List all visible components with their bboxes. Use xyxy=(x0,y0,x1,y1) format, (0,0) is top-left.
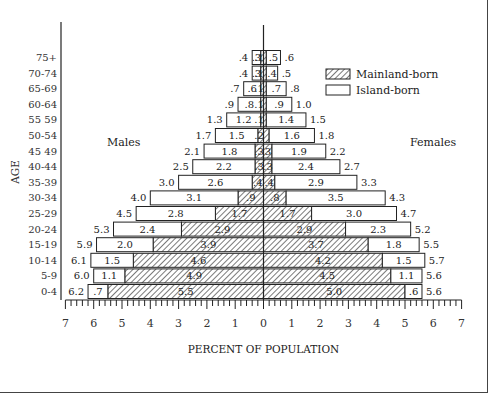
age-row: 75+.4.3.1.5.6 xyxy=(36,51,294,65)
age-label: 50-54 xyxy=(28,130,57,141)
label-male-mainland: .1 xyxy=(254,83,264,94)
label-female-mainland: 5.0 xyxy=(326,286,342,297)
label-male-total: 4.5 xyxy=(116,208,132,219)
label-female-island: .5 xyxy=(269,52,279,63)
label-female-mainland: 3.7 xyxy=(308,239,324,250)
label-male-mainland: .1 xyxy=(254,99,264,110)
label-male-mainland: .9 xyxy=(246,192,256,203)
label-female-mainland: 4.5 xyxy=(319,270,335,281)
age-label: 15-19 xyxy=(28,239,57,250)
label-female-mainland: .4 xyxy=(264,177,274,188)
label-female-total: 5.6 xyxy=(426,286,442,297)
label-male-mainland: .1 xyxy=(254,52,264,63)
label-female-total: 5.2 xyxy=(415,224,431,235)
legend-label-mainland: Mainland-born xyxy=(356,68,438,81)
label-female-total: 5.7 xyxy=(429,255,445,266)
age-label: 30-34 xyxy=(28,192,57,203)
label-male-total: 3.0 xyxy=(159,177,175,188)
label-male-mainland: 2.9 xyxy=(215,224,231,235)
females-label: Females xyxy=(410,136,457,149)
x-tick-label: 4 xyxy=(147,317,154,330)
age-label: 75+ xyxy=(36,52,57,63)
label-female-total: .5 xyxy=(282,68,292,79)
x-tick-label: 5 xyxy=(119,317,126,330)
x-tick-label: 1 xyxy=(232,317,239,330)
population-pyramid-chart: 75+.4.3.1.5.670-74.4.3.1.4.565-69.7.6.1.… xyxy=(0,0,495,402)
age-row: 15-195.92.03.93.71.85.5 xyxy=(28,238,439,252)
label-female-island: 3.0 xyxy=(346,208,362,219)
label-male-total: 6.0 xyxy=(74,270,90,281)
x-tick-label: 7 xyxy=(62,317,69,330)
label-male-total: 5.9 xyxy=(77,239,93,250)
label-male-island: 1.8 xyxy=(222,146,238,157)
x-tick-label: 3 xyxy=(175,317,182,330)
label-female-island: 1.5 xyxy=(396,255,412,266)
label-male-mainland: 4.9 xyxy=(186,270,202,281)
label-male-island: 1.5 xyxy=(104,255,120,266)
label-male-total: 4.0 xyxy=(130,192,146,203)
age-label: 35-39 xyxy=(28,177,57,188)
label-male-total: 2.5 xyxy=(173,161,189,172)
label-female-total: 5.6 xyxy=(426,270,442,281)
age-label: 25-29 xyxy=(28,208,57,219)
label-male-total: .7 xyxy=(230,83,240,94)
label-female-island: 1.6 xyxy=(284,130,300,141)
age-label: 55 59 xyxy=(28,114,57,125)
x-tick-label: 6 xyxy=(430,317,437,330)
age-label: 0-4 xyxy=(41,286,57,297)
age-row: 65-69.7.6.1.7.8 xyxy=(28,82,300,96)
label-female-island: .6 xyxy=(409,286,419,297)
label-female-total: 1.0 xyxy=(296,99,312,110)
age-row: 35-393.02.6.4.42.93.3 xyxy=(28,175,377,189)
label-male-total: 1.7 xyxy=(195,130,211,141)
label-male-mainland: 5.5 xyxy=(178,286,194,297)
age-row: 40-442.52.2.3.32.42.7 xyxy=(28,160,360,174)
bar-female-mainland xyxy=(264,129,270,143)
label-male-island: 2.2 xyxy=(216,161,232,172)
age-label: 40-44 xyxy=(28,161,57,172)
age-row: 5-96.01.14.94.51.15.6 xyxy=(41,269,442,283)
label-male-mainland: 1.7 xyxy=(231,208,247,219)
label-male-island: 2.6 xyxy=(207,177,223,188)
label-male-island: 1.2 xyxy=(236,114,252,125)
label-male-island: 2.4 xyxy=(140,224,156,235)
x-tick-label: 3 xyxy=(345,317,352,330)
label-male-mainland: 4.6 xyxy=(190,255,206,266)
label-female-total: 1.5 xyxy=(310,114,326,125)
x-tick-label: 7 xyxy=(458,317,465,330)
x-tick-label: 0 xyxy=(260,317,267,330)
label-female-mainland: 4.2 xyxy=(315,255,331,266)
label-male-mainland: .1 xyxy=(254,68,264,79)
label-female-total: 3.3 xyxy=(361,177,377,188)
legend: Mainland-bornIsland-born xyxy=(326,68,438,97)
legend-label-island: Island-born xyxy=(356,84,420,97)
label-female-mainland: 2.9 xyxy=(297,224,313,235)
x-axis-title: PERCENT OF POPULATION xyxy=(188,343,339,355)
label-male-island: 1.1 xyxy=(101,270,117,281)
label-male-total: .4 xyxy=(239,68,249,79)
label-female-island: .4 xyxy=(267,68,277,79)
x-tick-label: 1 xyxy=(288,317,295,330)
label-male-island: 3.1 xyxy=(186,192,202,203)
age-row: 25-294.52.81.71.73.04.7 xyxy=(28,207,416,221)
label-male-mainland: .3 xyxy=(254,146,264,157)
x-tick-label: 4 xyxy=(373,317,380,330)
label-female-total: .8 xyxy=(290,83,300,94)
age-row: 55 591.31.2.11.41.5 xyxy=(28,113,325,127)
age-row: 60-64.9.8.1.91.0 xyxy=(28,97,312,111)
label-female-island: .9 xyxy=(274,99,284,110)
x-tick-label: 2 xyxy=(317,317,324,330)
label-male-island: .8 xyxy=(245,99,255,110)
age-row: 45 492.11.8.331.92.2 xyxy=(28,144,345,158)
label-male-total: .4 xyxy=(239,52,249,63)
age-label: 20-24 xyxy=(28,224,57,235)
label-female-island: 1.8 xyxy=(386,239,402,250)
label-female-mainland: 1.7 xyxy=(280,208,296,219)
label-female-total: 1.8 xyxy=(318,130,334,141)
x-tick-label: 6 xyxy=(90,317,97,330)
label-female-island: 1.1 xyxy=(398,270,414,281)
label-female-total: 2.7 xyxy=(344,161,360,172)
label-female-island: 3.5 xyxy=(328,192,344,203)
label-male-mainland: .4 xyxy=(253,177,263,188)
label-male-island: 2.0 xyxy=(117,239,133,250)
